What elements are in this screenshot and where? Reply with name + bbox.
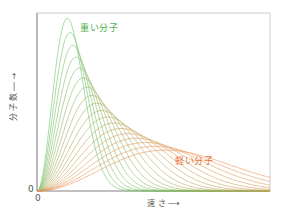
x-origin-label: 0 xyxy=(35,193,41,203)
x-axis-arrow-icon: ⟶ xyxy=(168,199,179,208)
y-axis-arrow-icon: ↑ xyxy=(7,72,21,82)
distribution-curve xyxy=(37,68,270,191)
x-axis-label: 速 さ ⟶ xyxy=(147,197,180,208)
y-axis-label: ↑ | 数子分 xyxy=(7,72,21,122)
distribution-curve xyxy=(37,117,270,191)
distribution-curve xyxy=(37,45,270,191)
plot-frame xyxy=(37,13,270,191)
y-origin-label: 0 xyxy=(28,184,34,194)
distribution-curve xyxy=(37,78,270,191)
distribution-curve xyxy=(37,32,270,191)
x-axis-text: 速 さ xyxy=(147,199,166,208)
heavy-molecule-label: 重い分子 xyxy=(80,21,118,34)
light-molecule-label: 軽い分子 xyxy=(175,154,213,167)
chart-plot xyxy=(0,0,285,223)
y-axis-text: 数子分 xyxy=(7,92,21,122)
distribution-curve xyxy=(37,18,270,191)
